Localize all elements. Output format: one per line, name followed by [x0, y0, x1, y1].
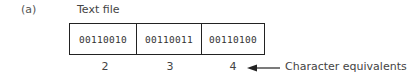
panel-label: (a) — [21, 3, 36, 16]
annotation-label: Character equivalents — [285, 60, 407, 73]
character-equivalent: 2 — [95, 60, 115, 73]
character-equivalent: 4 — [223, 60, 243, 73]
character-equivalent: 3 — [160, 60, 180, 73]
byte-cell: 00110100 — [201, 24, 264, 54]
diagram-title: Text file — [77, 3, 120, 16]
left-arrow-icon — [247, 63, 281, 73]
byte-cell: 00110010 — [70, 24, 136, 54]
byte-row: 00110010 00110011 00110100 — [69, 23, 265, 55]
byte-cell: 00110011 — [136, 24, 201, 54]
